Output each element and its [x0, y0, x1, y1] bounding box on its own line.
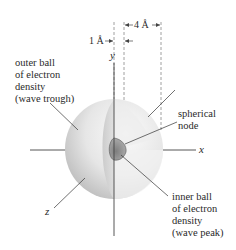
- leader-upper-right: [148, 90, 175, 117]
- outer-ball-line-1: outer ball: [15, 57, 74, 69]
- inner-ball-line-2: of electron: [172, 203, 224, 215]
- outer-radius-label: 4 Å: [134, 19, 149, 31]
- inner-ball-line-4: (wave peak): [172, 227, 224, 239]
- leader-outer-ball: [50, 103, 78, 130]
- inner-ball-label: inner ball of electron density (wave pea…: [172, 191, 224, 239]
- inner-radius-label: 1 Å: [89, 35, 104, 47]
- y-axis-label: y: [110, 49, 115, 61]
- orbital-diagram: 4 Å 1 Å y x z outer ball of electron den…: [0, 0, 236, 250]
- x-axis-label: x: [199, 143, 204, 155]
- z-axis-label: z: [45, 205, 49, 217]
- leader-z: [54, 178, 85, 208]
- outer-ball-line-2: of electron: [15, 69, 74, 81]
- outer-ball-label: outer ball of electron density (wave tro…: [15, 57, 74, 105]
- node-line-2: node: [178, 120, 216, 132]
- inner-ball-line-1: inner ball: [172, 191, 224, 203]
- outer-ball-line-4: (wave trough): [15, 93, 74, 105]
- outer-ball-line-3: density: [15, 81, 74, 93]
- inner-ball-line-3: density: [172, 215, 224, 227]
- node-line-1: spherical: [178, 108, 216, 120]
- spherical-node-label: spherical node: [178, 108, 216, 132]
